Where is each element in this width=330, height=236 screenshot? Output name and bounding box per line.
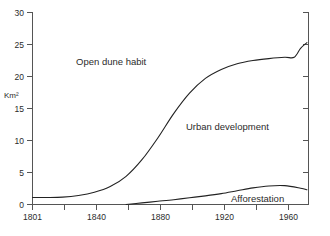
x-tick-label-1960: 1960 [279, 212, 298, 222]
annotation-urban-development: Urban development [186, 121, 269, 132]
y-tick-label-30: 30 [15, 8, 25, 18]
y-tick-label-10: 10 [15, 136, 25, 146]
y-tick-label-15: 15 [15, 104, 25, 114]
chart-container: 30 25 20 15 10 5 0 Km² 1801 1840 1880 [0, 0, 330, 236]
x-axis-ticks [33, 205, 289, 211]
y-axis-title: Km² [4, 91, 19, 100]
x-axis-tick-labels: 1801 1840 1880 1920 1960 [23, 212, 298, 222]
annotation-open-dune-habit: Open dune habit [76, 56, 147, 67]
y-tick-label-0: 0 [19, 200, 24, 210]
x-tick-label-1840: 1840 [87, 212, 106, 222]
annotation-afforestation: Afforestation [231, 193, 284, 204]
x-tick-label-1920: 1920 [215, 212, 234, 222]
y-axis-ticks [27, 13, 33, 205]
x-tick-label-1880: 1880 [151, 212, 170, 222]
y-axis-tick-labels: 30 25 20 15 10 5 0 [15, 8, 25, 210]
y-axis-right-ticks [303, 13, 309, 173]
axis-left-bottom [33, 12, 309, 205]
y-tick-label-25: 25 [15, 40, 25, 50]
x-tick-label-1801: 1801 [23, 212, 42, 222]
y-tick-label-20: 20 [15, 72, 25, 82]
y-tick-label-5: 5 [19, 168, 24, 178]
line-chart: 30 25 20 15 10 5 0 Km² 1801 1840 1880 [0, 0, 330, 236]
